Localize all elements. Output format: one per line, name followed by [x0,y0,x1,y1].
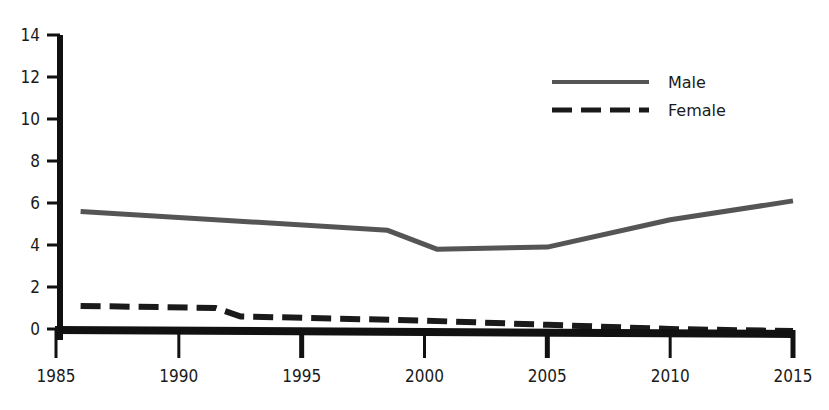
line-chart: 02468101214 1985199019952000200520102015… [0,0,829,410]
x-tick-label: 2005 [528,366,567,386]
y-ticks: 02468101214 [21,25,60,339]
y-tick-label: 14 [21,25,40,45]
y-tick-label: 0 [30,319,40,339]
y-tick-label: 2 [30,277,40,297]
x-tick-label: 1985 [37,366,76,386]
series-male-line [81,201,793,249]
x-ticks: 1985199019952000200520102015 [37,330,813,386]
y-tick-label: 12 [21,67,40,87]
y-tick-label: 4 [30,235,40,255]
legend: Male Female [552,73,726,120]
x-tick-label: 2000 [405,366,444,386]
x-tick-label: 2015 [774,366,813,386]
legend-female-label: Female [668,101,726,120]
series-layer [81,201,793,331]
y-tick-label: 6 [30,193,40,213]
legend-male-label: Male [668,73,706,92]
y-tick-label: 10 [21,109,40,129]
x-tick-label: 2010 [651,366,690,386]
x-tick-label: 1995 [282,366,321,386]
x-tick-label: 1990 [159,366,198,386]
y-tick-label: 8 [30,151,40,171]
